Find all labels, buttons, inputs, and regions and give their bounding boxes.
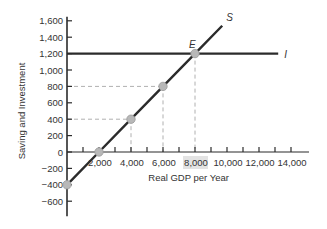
y-tick-label: −600 — [42, 196, 63, 207]
x-tick-label: 10,000 — [213, 157, 242, 168]
y-tick-label: 1,000 — [39, 65, 63, 76]
y-tick-label: 600 — [47, 97, 63, 108]
y-tick-label: 800 — [47, 81, 63, 92]
y-tick-label: 200 — [47, 130, 63, 141]
x-tick-label: 14,000 — [277, 157, 306, 168]
equilibrium-label: E — [189, 39, 196, 50]
y-tick-label: −400 — [42, 179, 63, 190]
y-tick-label: 1,400 — [39, 32, 63, 43]
saving-investment-chart: 1,6001,4001,2001,0008006004002000−200−40… — [0, 0, 327, 229]
x-tick-label: 8,000 — [184, 157, 208, 168]
data-point-marker — [127, 115, 135, 123]
x-tick-label: 4,000 — [120, 157, 144, 168]
y-tick-label: 1,600 — [39, 15, 63, 26]
data-point-marker — [63, 181, 71, 189]
data-point-marker — [191, 49, 199, 57]
data-point-marker — [95, 148, 103, 156]
y-tick-label: 1,200 — [39, 48, 63, 59]
investment-curve-label: I — [284, 49, 287, 60]
y-tick-label: −200 — [42, 163, 63, 174]
y-axis-title: Saving and Investment — [16, 62, 27, 159]
saving-curve-label: S — [226, 12, 233, 23]
y-tick-label: 0 — [58, 147, 63, 158]
x-tick-label: 12,000 — [245, 157, 274, 168]
reference-dashed-lines — [67, 54, 195, 152]
x-tick-label: 6,000 — [152, 157, 176, 168]
x-axis-title: Real GDP per Year — [148, 172, 229, 183]
axes: 1,6001,4001,2001,0008006004002000−200−40… — [39, 15, 309, 216]
data-point-marker — [159, 82, 167, 90]
y-tick-label: 400 — [47, 114, 63, 125]
